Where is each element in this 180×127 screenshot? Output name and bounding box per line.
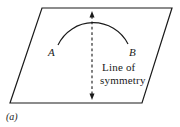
symmetry-label-line1: Line of — [102, 61, 136, 73]
symmetry-label-line2: symmetry — [100, 74, 146, 86]
arrow-up-icon — [90, 11, 95, 18]
arrow-down-icon — [90, 94, 95, 101]
point-b-label: B — [129, 46, 136, 58]
arc-a-to-b — [58, 23, 128, 45]
point-a-label: A — [47, 46, 55, 58]
figure-canvas: A B Line of symmetry (a) — [0, 0, 180, 127]
symmetry-plane-figure: A B Line of symmetry (a) — [0, 0, 180, 127]
figure-caption: (a) — [6, 111, 18, 123]
